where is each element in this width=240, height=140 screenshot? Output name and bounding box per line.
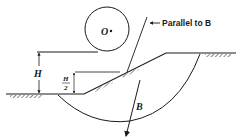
half-height-numerator: H (62, 75, 69, 83)
crest-hatching (205, 54, 231, 57)
tangent-line: Parallel to B (127, 17, 211, 72)
slope-hatching-upper (122, 68, 139, 78)
slope-hatching-lower (94, 81, 113, 92)
center-point (110, 30, 112, 32)
slip-surface-arc (58, 54, 200, 122)
toe-hatching (10, 95, 42, 98)
half-height-denominator: 2 (63, 84, 68, 92)
center-label: O (101, 26, 108, 37)
height-dimension: H (33, 53, 43, 93)
friction-circle: O (85, 7, 129, 51)
tangent-note: Parallel to B (162, 18, 211, 28)
force-b: B (126, 80, 143, 136)
slope-stability-diagram: O Parallel to B H H 2 B (0, 0, 240, 140)
force-label: B (135, 101, 143, 112)
height-label: H (33, 68, 43, 79)
